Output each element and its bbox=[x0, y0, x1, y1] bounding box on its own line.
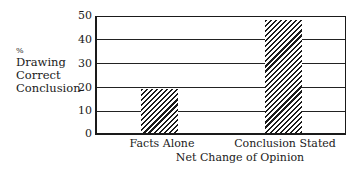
gridline bbox=[97, 63, 345, 64]
y-tick-label: 20 bbox=[72, 82, 92, 94]
y-tick-label: 0 bbox=[72, 128, 92, 140]
gridline bbox=[97, 87, 345, 88]
y-tick-label: 50 bbox=[72, 10, 92, 22]
bar-conclusion-stated bbox=[265, 20, 302, 133]
x-category-label: Facts Alone bbox=[102, 137, 222, 150]
gridline bbox=[97, 39, 345, 40]
y-tick-label: 40 bbox=[72, 34, 92, 46]
bar-facts-alone bbox=[141, 89, 178, 133]
x-category-label: Conclusion Stated bbox=[225, 137, 345, 150]
y-axis-label: % Drawing Correct Conclusion bbox=[16, 46, 81, 95]
y-axis-label-line: Conclusion bbox=[16, 82, 81, 95]
y-tick-label: 10 bbox=[72, 105, 92, 117]
gridline bbox=[97, 111, 345, 112]
y-tick-label: 30 bbox=[72, 58, 92, 70]
plot-area bbox=[95, 16, 346, 135]
x-axis-label: Net Change of Opinion bbox=[160, 151, 320, 164]
